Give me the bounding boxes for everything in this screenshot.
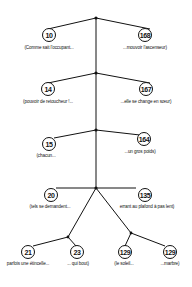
node-10: 10 — [42, 28, 56, 42]
node-14-label: (pouvoir de retoucheur !... — [23, 99, 73, 104]
node-10-label: (Comme sait l'occupant... — [24, 45, 73, 50]
node-167-label: ...elle se change en sœur) — [121, 99, 172, 104]
node-129-right: 129 — [163, 245, 177, 259]
node-129-right-label: ...marbre) — [161, 261, 180, 266]
node-164: 164 — [137, 132, 151, 146]
node-21-label: parfois une étincelle... — [7, 261, 49, 266]
node-20-label: (tels se demandent... — [30, 204, 71, 209]
node-164-label: ...un gros poids) — [124, 149, 155, 154]
tree-edges — [0, 0, 192, 287]
node-135: 135 — [138, 188, 152, 202]
node-167: 167 — [139, 82, 153, 96]
node-14: 14 — [41, 82, 55, 96]
node-23-label: ... qui bout) — [67, 261, 89, 266]
node-129-left-label: (le soleil... — [114, 261, 133, 266]
node-23: 23 — [70, 245, 84, 259]
node-129-left: 129 — [118, 245, 132, 259]
node-15-label: (chacun... — [36, 153, 55, 158]
node-15: 15 — [42, 137, 56, 151]
node-168: 168 — [138, 28, 152, 42]
node-168-label: ...mouvoir l'ascenseur) — [123, 45, 167, 50]
node-20: 20 — [44, 188, 58, 202]
node-135-label: errant au plafond à pas lent) — [120, 204, 175, 209]
node-21: 21 — [21, 245, 35, 259]
